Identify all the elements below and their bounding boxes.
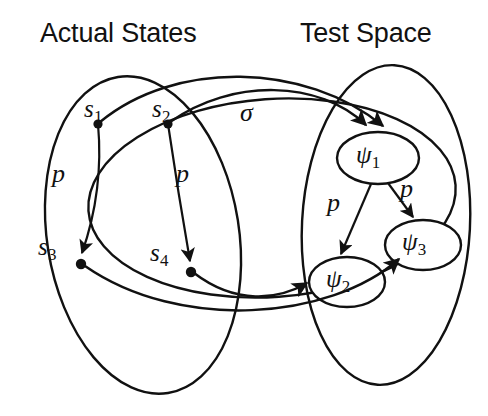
node-label-psi1: ψ1 [356,142,380,171]
state-label-s1: s1 [84,96,103,125]
state-label-s2: s2 [152,96,171,125]
edge-label-p-psi1-psi2: p [327,190,340,216]
edge-label-p-s2-s4: p [176,161,189,187]
state-label-s3: s3 [38,234,57,263]
test-space-title: Test Space [300,18,432,49]
edge-s4-psi2-path [194,273,307,296]
test-space-ellipse [294,61,479,389]
edge-psi1-psi2-path [341,184,371,254]
edge-label-p-psi1-psi3: p [400,176,413,202]
node-label-psi2: ψ2 [326,266,350,295]
actual-states-ellipse [23,62,263,408]
edge-label-p-s1-s3: p [52,161,65,187]
state-label-s4: s4 [150,240,169,269]
edge-s2-s4-path [168,124,190,261]
state-s4-dot [186,267,196,277]
edge-label-sigma: σ [240,100,253,126]
diagram-vector-layer [0,0,488,416]
diagram-canvas: Actual States Test Space s1 s2 s3 s4 p p… [0,0,488,416]
node-label-psi3: ψ3 [402,229,426,258]
state-s3-dot [76,259,86,269]
actual-states-title: Actual States [40,18,197,49]
